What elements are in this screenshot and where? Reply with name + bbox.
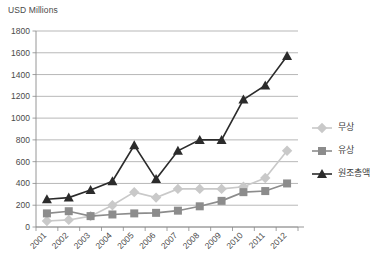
series-polyline bbox=[47, 56, 287, 199]
y-tick-label: 400 bbox=[16, 178, 30, 188]
data-point-marker bbox=[216, 184, 226, 194]
y-tick-label: 1400 bbox=[11, 70, 30, 80]
data-point-marker bbox=[173, 146, 183, 155]
data-point-marker bbox=[239, 188, 247, 196]
data-point-marker bbox=[282, 51, 292, 60]
x-tick-label: 2005 bbox=[115, 230, 136, 251]
data-point-marker bbox=[283, 179, 291, 187]
legend-label: 무상 bbox=[338, 122, 354, 132]
data-point-marker bbox=[65, 207, 73, 215]
data-point-marker bbox=[174, 207, 182, 215]
data-point-marker bbox=[130, 209, 138, 217]
data-point-marker bbox=[151, 192, 161, 202]
y-tick-label: 1000 bbox=[11, 113, 30, 123]
legend-label: 유상 bbox=[338, 145, 354, 155]
series-유상 bbox=[43, 179, 291, 220]
x-tick-label: 2006 bbox=[137, 230, 158, 251]
x-tick-label: 2009 bbox=[203, 230, 224, 251]
legend-label: 원조총액 bbox=[338, 167, 370, 178]
chart-plot: 0200400600800100012001400160018002001200… bbox=[0, 0, 390, 260]
x-tick-label: 2010 bbox=[224, 230, 245, 251]
data-point-marker bbox=[318, 147, 326, 155]
data-point-marker bbox=[173, 184, 183, 194]
y-tick-label: 600 bbox=[16, 157, 30, 167]
x-tick-label: 2002 bbox=[50, 230, 71, 251]
y-tick-label: 1200 bbox=[11, 91, 30, 101]
chart-container: USD Millions 020040060080010001200140016… bbox=[0, 0, 390, 260]
data-point-marker bbox=[317, 123, 327, 133]
y-tick-label: 0 bbox=[25, 222, 30, 232]
y-tick-label: 200 bbox=[16, 200, 30, 210]
data-point-marker bbox=[107, 200, 117, 210]
data-point-marker bbox=[43, 209, 51, 217]
y-tick-label: 1600 bbox=[11, 48, 30, 58]
x-tick-label: 2007 bbox=[159, 230, 180, 251]
data-point-marker bbox=[218, 197, 226, 205]
data-point-marker bbox=[108, 210, 116, 218]
legend-entry: 무상 bbox=[312, 122, 354, 133]
legend-entry: 원조총액 bbox=[312, 167, 370, 178]
data-point-marker bbox=[129, 140, 139, 149]
data-point-marker bbox=[87, 212, 95, 220]
series-원조총액 bbox=[42, 51, 292, 203]
data-point-marker bbox=[64, 215, 74, 225]
x-tick-label: 2004 bbox=[93, 230, 114, 251]
x-tick-label: 2012 bbox=[268, 230, 289, 251]
data-point-marker bbox=[261, 187, 269, 195]
y-tick-label: 1800 bbox=[11, 26, 30, 36]
data-point-marker bbox=[195, 184, 205, 194]
data-point-marker bbox=[152, 209, 160, 217]
data-point-marker bbox=[129, 187, 139, 197]
legend-entry: 유상 bbox=[312, 145, 354, 155]
data-point-marker bbox=[238, 95, 248, 104]
series-polyline bbox=[47, 183, 287, 216]
x-tick-label: 2008 bbox=[181, 230, 202, 251]
x-tick-label: 2011 bbox=[247, 230, 267, 250]
x-tick-label: 2001 bbox=[28, 230, 49, 251]
data-point-marker bbox=[107, 176, 117, 185]
y-tick-label: 800 bbox=[16, 135, 30, 145]
series-polyline bbox=[47, 151, 287, 221]
x-tick-label: 2003 bbox=[72, 230, 93, 251]
data-point-marker bbox=[86, 185, 96, 194]
data-point-marker bbox=[196, 202, 204, 210]
